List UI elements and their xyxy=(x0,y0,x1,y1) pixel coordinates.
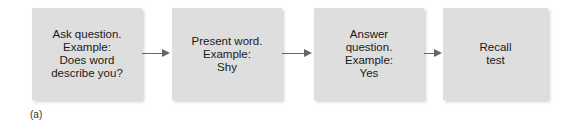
step-ask-question: Ask question. Example: Does word describ… xyxy=(32,8,142,100)
arrow-2 xyxy=(282,53,310,54)
step-present-word: Present word. Example: Shy xyxy=(172,8,282,100)
arrow-3 xyxy=(424,53,440,54)
arrow-1 xyxy=(142,53,168,54)
step-answer-question: Answer question. Example: Yes xyxy=(314,8,424,100)
panel-label: (a) xyxy=(30,109,42,120)
step-recall-test: Recall test xyxy=(443,8,548,100)
